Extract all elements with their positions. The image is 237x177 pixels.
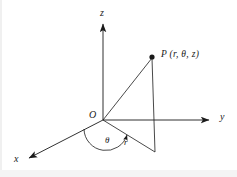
x-axis-line bbox=[29, 120, 103, 158]
point-p-marker bbox=[149, 54, 154, 59]
cylindrical-coordinates-figure: z y x O θ r P (r, θ, z) bbox=[0, 0, 237, 177]
y-axis-label: y bbox=[220, 112, 224, 122]
point-p-label: P (r, θ, z) bbox=[161, 50, 199, 60]
origin-label: O bbox=[89, 110, 96, 120]
x-axis-label: x bbox=[14, 154, 18, 164]
z-axis-label: z bbox=[100, 8, 104, 18]
radius-r-label: r bbox=[124, 138, 128, 147]
angle-theta-label: θ bbox=[105, 136, 109, 145]
origin-to-point-segment bbox=[103, 58, 152, 120]
radius-segment bbox=[103, 120, 155, 152]
height-segment bbox=[152, 58, 155, 152]
figure-canvas bbox=[0, 0, 237, 177]
